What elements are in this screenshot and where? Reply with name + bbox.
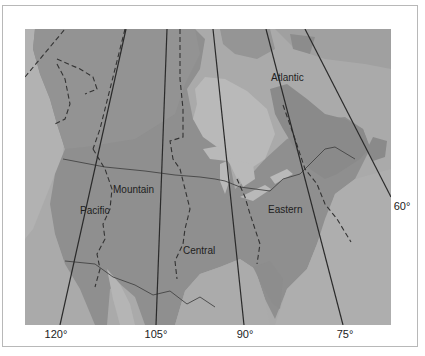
meridian-label-120: 120° (45, 328, 68, 340)
meridian-label-90: 90° (237, 328, 254, 340)
zone-label-mountain: Mountain (113, 184, 154, 195)
zone-label-atlantic: Atlantic (271, 72, 304, 83)
zone-label-eastern: Eastern (268, 204, 302, 215)
meridian-label-105: 105° (145, 328, 168, 340)
meridian-label-75: 75° (337, 328, 354, 340)
time-zone-map: Atlantic Mountain Pacific Central Easter… (25, 29, 391, 325)
meridian-label-60: 60° (394, 200, 411, 212)
zone-label-pacific: Pacific (80, 205, 109, 216)
zone-label-central: Central (183, 245, 215, 256)
map-graphic (25, 29, 391, 325)
